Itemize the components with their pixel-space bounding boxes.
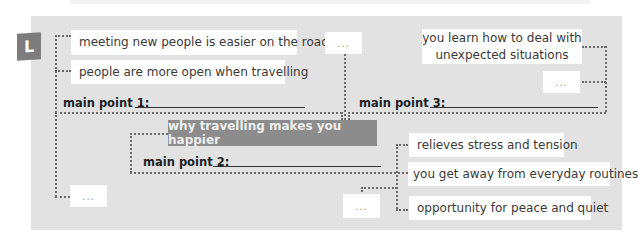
detail-text-line: you learn how to deal with xyxy=(422,30,581,47)
detail-box-point2-b: you get away from everyday routines xyxy=(408,162,610,186)
ellipsis-text: ... xyxy=(337,35,350,52)
ellipsis-text: ... xyxy=(82,188,95,205)
exercise-badge: L xyxy=(17,32,41,60)
detail-text-line: unexpected situations xyxy=(435,47,568,64)
connector xyxy=(396,144,408,146)
connector xyxy=(582,81,606,83)
connector xyxy=(396,144,398,209)
ellipsis-text: ... xyxy=(355,198,368,215)
top-edge-strip xyxy=(70,0,590,4)
connector xyxy=(361,187,397,189)
connector xyxy=(396,209,408,211)
diagram-title: why travelling makes you happier xyxy=(168,120,377,146)
placeholder-box-point1: ... xyxy=(70,185,107,207)
ellipsis-text: ... xyxy=(555,74,568,91)
detail-box-point1-a: meeting new people is easier on the road xyxy=(71,30,297,55)
connector xyxy=(55,70,71,72)
detail-box-point3-a: you learn how to deal with unexpected si… xyxy=(422,29,582,64)
connector xyxy=(348,112,606,114)
placeholder-box-point3-top: ... xyxy=(325,32,362,54)
detail-box-point2-a: relieves stress and tension xyxy=(409,133,564,157)
connector xyxy=(130,133,132,173)
connector xyxy=(344,54,346,120)
connector xyxy=(582,46,606,48)
connector xyxy=(605,46,607,112)
connector xyxy=(130,133,168,135)
placeholder-box-point3-b: ... xyxy=(543,71,580,93)
detail-box-point2-c: opportunity for peace and quiet xyxy=(409,196,591,220)
main-point-3-answer-line[interactable] xyxy=(430,107,598,108)
connector xyxy=(55,196,70,198)
connector xyxy=(55,35,71,37)
connector xyxy=(130,172,408,174)
placeholder-box-point2: ... xyxy=(343,194,380,218)
main-point-1-answer-line[interactable] xyxy=(135,107,305,108)
connector xyxy=(55,112,342,114)
connector xyxy=(55,35,57,197)
detail-box-point1-b: people are more open when travelling xyxy=(71,60,285,84)
main-point-2-answer-line[interactable] xyxy=(213,166,381,167)
